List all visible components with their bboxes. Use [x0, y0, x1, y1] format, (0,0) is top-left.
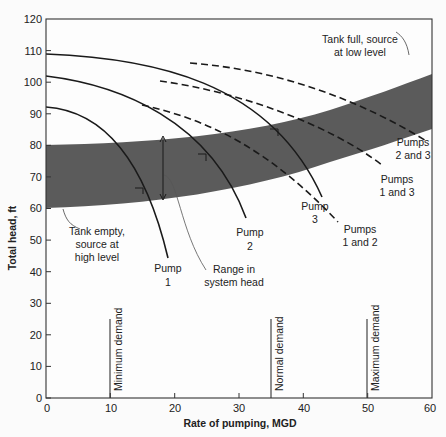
range-label-line1: Range in — [213, 263, 255, 275]
svg-text:40: 40 — [30, 266, 42, 278]
svg-text:10: 10 — [105, 402, 117, 414]
y-tick-labels: 0 10 20 30 40 50 60 70 80 90 100 110 120 — [24, 13, 42, 404]
pumps-2-3-number: 2 and 3 — [395, 149, 430, 161]
pump-system-head-chart: Minimum demand Normal demand Maximum dem… — [0, 0, 446, 437]
pumps-2-3-label: Pumps — [397, 136, 430, 148]
svg-text:50: 50 — [30, 234, 42, 246]
x-tick-labels: 0 10 20 30 40 50 60 — [44, 402, 436, 414]
svg-text:30: 30 — [30, 297, 42, 309]
x-axis-title: Rate of pumping, MGD — [183, 417, 297, 429]
pump-1-number: 1 — [165, 276, 171, 288]
pumps-1-2-number: 1 and 2 — [342, 236, 377, 248]
svg-text:110: 110 — [24, 45, 42, 57]
svg-text:120: 120 — [24, 13, 42, 25]
tank-empty-label-line2: source at — [75, 238, 118, 250]
svg-text:0: 0 — [36, 392, 42, 404]
svg-text:10: 10 — [30, 360, 42, 372]
pumps-1-3-number: 1 and 3 — [379, 186, 414, 198]
range-label-line2: system head — [204, 276, 264, 288]
svg-text:100: 100 — [24, 76, 42, 88]
tank-empty-label-line3: high level — [75, 251, 119, 263]
y-axis-title: Total head, ft — [6, 205, 18, 270]
maximum-demand-label: Maximum demand — [369, 304, 381, 391]
svg-text:20: 20 — [30, 329, 42, 341]
pump-1-label: Pump — [154, 262, 182, 274]
tank-full-label-line2: at low level — [334, 46, 386, 58]
pump-2-label: Pump — [236, 226, 264, 238]
tank-empty-label-line1: Tank empty, — [69, 225, 125, 237]
svg-text:40: 40 — [298, 402, 310, 414]
pump-3-label: Pump — [301, 200, 329, 212]
svg-text:70: 70 — [30, 171, 42, 183]
svg-text:80: 80 — [30, 139, 42, 151]
svg-text:60: 60 — [30, 202, 42, 214]
svg-text:50: 50 — [362, 402, 374, 414]
tank-full-label-line1: Tank full, source — [322, 33, 398, 45]
svg-text:60: 60 — [424, 402, 436, 414]
svg-text:0: 0 — [44, 402, 50, 414]
minimum-demand-label: Minimum demand — [112, 307, 124, 391]
svg-text:90: 90 — [30, 108, 42, 120]
pump-2-number: 2 — [247, 240, 253, 252]
svg-text:20: 20 — [169, 402, 181, 414]
pumps-1-3-label: Pumps — [381, 173, 414, 185]
normal-demand-label: Normal demand — [273, 316, 285, 391]
pump-3-number: 3 — [312, 213, 318, 225]
pumps-1-2-label: Pumps — [344, 223, 377, 235]
svg-text:30: 30 — [233, 402, 245, 414]
